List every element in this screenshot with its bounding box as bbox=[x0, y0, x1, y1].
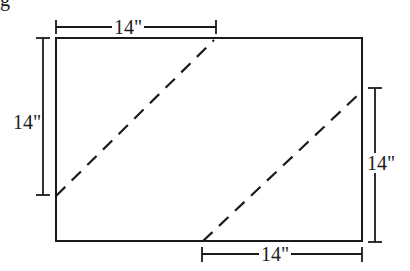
dimension-label-left: 14" bbox=[11, 112, 43, 132]
cut-line-upper bbox=[56, 40, 214, 196]
fabric-rectangle bbox=[56, 38, 362, 241]
fabric-cutting-diagram bbox=[0, 0, 410, 271]
dimension-label-top: 14" bbox=[112, 17, 144, 37]
dimension-label-right: 14" bbox=[365, 153, 397, 173]
cut-line-lower bbox=[203, 93, 360, 241]
dimension-label-bottom: 14" bbox=[259, 244, 291, 264]
